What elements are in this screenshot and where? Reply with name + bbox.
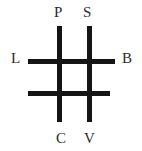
horizontal-line-top [28, 59, 115, 64]
grid-diagram: P S L B C V [0, 0, 142, 151]
label-right: B [122, 51, 132, 66]
vertical-line-right [87, 26, 92, 122]
label-bottom-left: C [56, 131, 66, 146]
label-bottom-right: V [84, 131, 95, 146]
label-top-right: S [83, 5, 91, 20]
label-top-left: P [54, 5, 62, 20]
horizontal-line-bottom [28, 91, 110, 96]
label-left: L [11, 51, 20, 66]
vertical-line-left [57, 26, 62, 122]
